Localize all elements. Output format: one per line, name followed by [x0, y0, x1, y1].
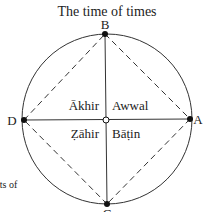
- point-b-dot: [102, 31, 108, 37]
- point-d-dot: [21, 117, 27, 123]
- time-of-times-diagram: The time of times B A D C Ākhir Awwal Ẓā…: [0, 0, 205, 212]
- cropped-caption-fragment: its of: [0, 179, 18, 190]
- label-c: C: [103, 206, 112, 212]
- label-d: D: [7, 113, 16, 128]
- label-a: A: [193, 112, 203, 127]
- quadrant-awwal: Awwal: [112, 98, 149, 113]
- center-point: [103, 117, 109, 123]
- point-a-dot: [187, 116, 193, 122]
- quadrant-zahir: Ẓāhir: [71, 126, 100, 141]
- quadrant-akhir: Ākhir: [69, 98, 100, 113]
- quadrant-batin: Bāṭin: [112, 126, 141, 141]
- label-b: B: [101, 17, 110, 32]
